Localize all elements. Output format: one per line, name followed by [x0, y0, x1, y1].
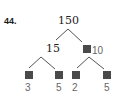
answer-box [83, 45, 91, 53]
answer-box [55, 71, 63, 79]
leaf-value: 3 [25, 83, 31, 93]
root-value: 150 [58, 15, 79, 26]
leaf-value: 5 [56, 83, 62, 93]
right-node-value: 10 [92, 46, 103, 56]
leaf-value: 2 [72, 83, 78, 93]
left-node-value: 15 [46, 43, 60, 54]
answer-box [25, 71, 33, 79]
answer-box [103, 71, 111, 79]
leaf-value: 5 [104, 83, 110, 93]
answer-box [72, 71, 80, 79]
